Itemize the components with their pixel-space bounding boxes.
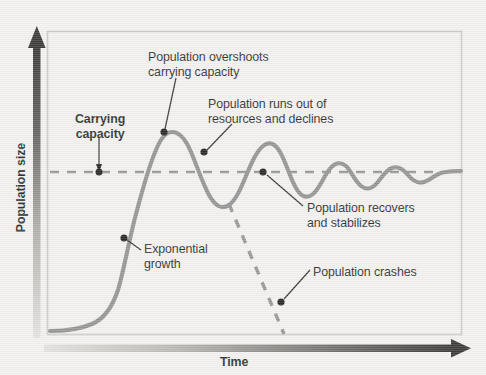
x-axis-label: Time <box>220 355 248 370</box>
population-curve <box>50 132 461 331</box>
annotation-carrying-capacity: Carrying capacity <box>75 112 125 142</box>
marker-dot-exponential <box>120 234 127 241</box>
marker-dot-recovers <box>259 168 266 175</box>
marker-dot-runs-out <box>200 148 207 155</box>
leader-runs-out <box>207 124 232 150</box>
marker-dot-crashes <box>277 298 284 305</box>
annotation-population-recovers: Population recovers and stabilizes <box>307 201 415 231</box>
marker-dot-carrying-capacity <box>96 169 103 176</box>
annotation-population-crashes: Population crashes <box>313 265 417 280</box>
leader-overshoot <box>165 78 176 129</box>
leader-crashes <box>284 270 310 299</box>
x-axis-arrow <box>44 339 471 357</box>
annotation-runs-out-of-resources: Population runs out of resources and dec… <box>208 97 333 127</box>
annotation-overshoot: Population overshoots carrying capacity <box>148 50 269 80</box>
leader-carrying-capacity <box>96 137 102 172</box>
y-axis-arrow <box>28 26 46 338</box>
population-crash-curve <box>229 204 284 334</box>
marker-dot-overshoot <box>160 128 167 135</box>
figure-canvas: Population overshoots carrying capacity … <box>0 0 486 375</box>
y-axis-label: Population size <box>14 133 29 243</box>
annotation-exponential-growth: Exponential growth <box>144 242 208 272</box>
